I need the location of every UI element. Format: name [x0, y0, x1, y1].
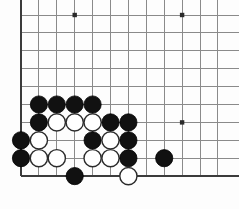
white-stone[interactable]: [84, 114, 101, 131]
white-stone[interactable]: [48, 114, 65, 131]
black-stone[interactable]: [12, 150, 29, 167]
black-stone[interactable]: [30, 96, 47, 113]
star-point-hoshi: [180, 13, 184, 17]
star-point-hoshi: [73, 13, 77, 17]
black-stone[interactable]: [120, 114, 137, 131]
white-stone[interactable]: [84, 150, 101, 167]
black-stone[interactable]: [84, 132, 101, 149]
white-stone[interactable]: [66, 114, 83, 131]
black-stone[interactable]: [66, 96, 83, 113]
black-stone[interactable]: [12, 132, 29, 149]
black-stone[interactable]: [84, 96, 101, 113]
white-stone[interactable]: [120, 168, 137, 185]
white-stone[interactable]: [102, 150, 119, 167]
black-stone[interactable]: [30, 114, 47, 131]
black-stone[interactable]: [102, 114, 119, 131]
go-board[interactable]: [0, 0, 239, 209]
black-stone[interactable]: [48, 96, 65, 113]
black-stone[interactable]: [156, 150, 173, 167]
white-stone[interactable]: [48, 150, 65, 167]
black-stone[interactable]: [66, 168, 83, 185]
white-stone[interactable]: [30, 150, 47, 167]
goban-canvas[interactable]: [0, 0, 239, 209]
black-stone[interactable]: [120, 150, 137, 167]
black-stone[interactable]: [120, 132, 137, 149]
white-stone[interactable]: [102, 132, 119, 149]
white-stone[interactable]: [30, 132, 47, 149]
star-point-hoshi: [180, 120, 184, 124]
